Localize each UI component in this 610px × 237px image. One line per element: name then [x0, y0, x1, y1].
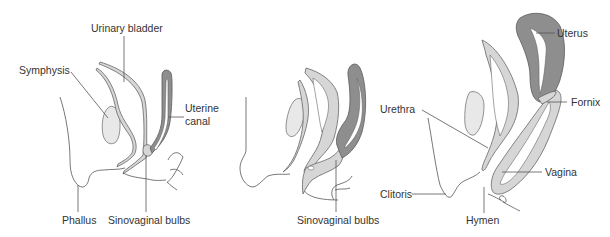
label-vagina: Vagina — [545, 166, 577, 178]
symphysis-shape-3 — [465, 92, 484, 136]
label-clitoris: Clitoris — [380, 188, 412, 200]
leader-symphysis — [71, 72, 108, 118]
sinus-lumen-2 — [308, 166, 314, 170]
label-uterus: Uterus — [557, 27, 588, 39]
panel-3: Uterus Urethra Fornix Vagina Clitoris Hy… — [380, 13, 601, 226]
perineum-outline — [123, 153, 183, 190]
label-hymen: Hymen — [466, 214, 499, 226]
perineum-outline-3 — [488, 194, 520, 211]
body-outline-2 — [240, 97, 290, 187]
panel-2: Sinovaginal bulbs — [240, 64, 379, 226]
label-symphysis: Symphysis — [19, 64, 70, 76]
label-uterine: Uterine — [185, 102, 219, 114]
embryology-diagram: Urinary bladder Symphysis Uterine canal … — [0, 0, 610, 237]
label-fornix: Fornix — [571, 96, 601, 108]
label-canal: canal — [185, 115, 210, 127]
label-sinovaginal-bulbs-2: Sinovaginal bulbs — [297, 214, 379, 226]
label-phallus: Phallus — [62, 214, 96, 226]
panel-1: Urinary bladder Symphysis Uterine canal … — [19, 22, 219, 226]
label-sinovaginal-bulbs-1: Sinovaginal bulbs — [108, 214, 190, 226]
label-urethra: Urethra — [380, 103, 415, 115]
label-urinary-bladder: Urinary bladder — [91, 22, 163, 34]
